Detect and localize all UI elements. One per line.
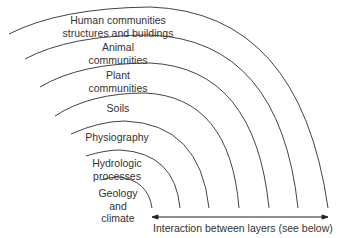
arc-soils	[55, 93, 239, 208]
interaction-arrow	[152, 215, 328, 219]
label-line: Soils	[96, 102, 140, 115]
label-line: climate	[94, 212, 142, 225]
label-hydrologic: Hydrologic processes	[88, 157, 146, 182]
label-line: processes	[88, 170, 146, 183]
label-plant: Plant communities	[86, 69, 150, 94]
label-soils: Soils	[96, 102, 140, 115]
label-line: communities	[86, 54, 150, 67]
label-line: Human communities	[62, 14, 174, 27]
label-line: communities	[86, 82, 150, 95]
label-physiography: Physiography	[84, 131, 150, 144]
label-line: Physiography	[84, 131, 150, 144]
label-geology: Geology and climate	[94, 187, 142, 225]
arrow-label: Interaction between layers (see below)	[153, 222, 333, 234]
label-line: Hydrologic	[88, 157, 146, 170]
arc-animal	[25, 35, 298, 208]
label-animal: Animal communities	[86, 41, 150, 66]
label-line: structures and buildings	[62, 27, 174, 40]
label-line: Plant	[86, 69, 150, 82]
label-line: and	[94, 200, 142, 213]
arc-plant	[40, 63, 269, 208]
label-human: Human communities structures and buildin…	[62, 14, 174, 39]
label-line: Animal	[86, 41, 150, 54]
label-line: Geology	[94, 187, 142, 200]
